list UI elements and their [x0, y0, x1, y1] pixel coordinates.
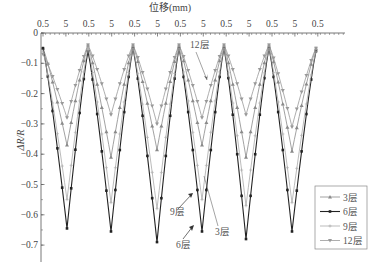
svg-text:5: 5 — [293, 19, 298, 29]
svg-text:−0.7: −0.7 — [21, 240, 38, 250]
svg-text:0.5: 0.5 — [37, 19, 49, 29]
svg-text:5: 5 — [201, 19, 206, 29]
svg-text:9层: 9层 — [170, 207, 185, 217]
svg-text:3层: 3层 — [343, 193, 358, 203]
svg-text:3层: 3层 — [215, 227, 230, 237]
svg-text:0.5: 0.5 — [312, 19, 324, 29]
svg-text:5: 5 — [64, 19, 69, 29]
svg-text:−0.5: −0.5 — [21, 180, 38, 190]
annotation-9: 9层 — [170, 193, 193, 217]
annotation-3: 3层 — [204, 176, 230, 237]
y-axis-title: ΔR/R — [15, 130, 26, 152]
svg-text:5: 5 — [155, 19, 160, 29]
annotation-12: 12层 — [190, 40, 210, 80]
svg-text:12层: 12层 — [343, 236, 363, 246]
svg-text:6层: 6层 — [176, 240, 191, 250]
svg-text:5: 5 — [109, 19, 114, 29]
svg-text:0.5: 0.5 — [129, 19, 141, 29]
svg-text:6层: 6层 — [343, 207, 358, 217]
svg-text:0.5: 0.5 — [83, 19, 95, 29]
svg-text:−0.1: −0.1 — [21, 58, 38, 68]
x-axis-title: 位移(mm) — [149, 1, 191, 14]
svg-text:0.5: 0.5 — [266, 19, 278, 29]
svg-text:−0.6: −0.6 — [21, 210, 38, 220]
svg-text:0.5: 0.5 — [220, 19, 232, 29]
svg-text:5: 5 — [247, 19, 252, 29]
svg-text:0.5: 0.5 — [174, 19, 186, 29]
legend: 3层6层9层12层 — [315, 186, 367, 249]
svg-text:−0.3: −0.3 — [21, 119, 38, 129]
x-axis-top: 0.550.550.550.550.550.550.5 — [37, 19, 345, 37]
svg-text:0: 0 — [33, 28, 38, 38]
svg-text:−0.2: −0.2 — [21, 89, 38, 99]
annotation-6: 6层 — [176, 225, 194, 250]
svg-text:12层: 12层 — [190, 40, 210, 50]
chart: 位移(mm) 0.550.550.550.550.550.550.5 0−0.1… — [0, 0, 383, 274]
svg-text:9层: 9层 — [343, 222, 358, 232]
